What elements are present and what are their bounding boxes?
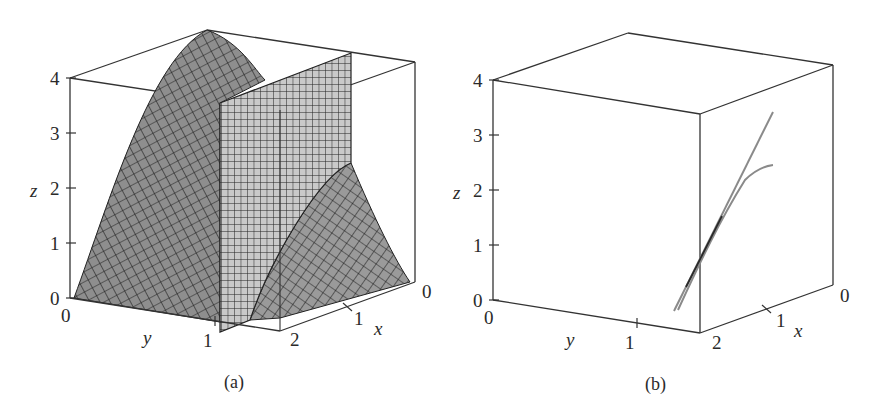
panel-b-z-tick-0: 0 xyxy=(473,290,483,311)
tangent-contact-segment xyxy=(686,216,722,287)
panel-b: 4 3 2 1 0 z 0 1 y 0 1 2 x (b) xyxy=(452,33,850,395)
panel-a-caption: (a) xyxy=(224,372,244,393)
panel-b-z-label: z xyxy=(452,182,461,203)
panel-b-z-tick-3: 3 xyxy=(473,125,483,146)
panel-a-y-label: y xyxy=(141,327,152,348)
panel-a-y-tick-1: 1 xyxy=(203,330,213,351)
panel-b-x-tick-1: 1 xyxy=(776,310,786,331)
panel-a: 4 3 2 1 0 z 0 1 y 0 1 2 x (a) xyxy=(29,30,432,393)
panel-b-z-tick-2: 2 xyxy=(473,180,483,201)
panel-a-x-tick-1: 1 xyxy=(354,308,364,329)
figure: 4 3 2 1 0 z 0 1 y 0 1 2 x (a) xyxy=(0,0,871,410)
panel-b-z-tick-1: 1 xyxy=(473,235,483,256)
panel-b-caption: (b) xyxy=(645,374,666,395)
panel-a-z-tick-3: 3 xyxy=(50,123,60,144)
panel-a-x-tick-2: 2 xyxy=(290,329,300,350)
panel-b-x-label: x xyxy=(793,320,803,341)
panel-a-z-label: z xyxy=(29,180,38,201)
panel-a-z-tick-4: 4 xyxy=(50,68,60,89)
panel-a-z-tick-0: 0 xyxy=(50,288,60,309)
panel-b-y-tick-1: 1 xyxy=(625,332,635,353)
panel-a-z-tick-2: 2 xyxy=(50,178,60,199)
panel-b-x-tick-2: 2 xyxy=(712,332,722,353)
panel-a-x-label: x xyxy=(373,318,383,339)
panel-a-z-tick-1: 1 xyxy=(50,233,60,254)
panel-b-z-tick-4: 4 xyxy=(473,70,483,91)
panel-b-y-tick-0: 0 xyxy=(484,307,494,328)
panel-b-box-frame xyxy=(493,33,833,333)
intersection-curve xyxy=(678,165,773,310)
panel-a-y-tick-0: 0 xyxy=(61,305,71,326)
panel-a-x-tick-0: 0 xyxy=(422,281,432,302)
panel-b-x-tick-0: 0 xyxy=(840,285,850,306)
panel-b-y-label: y xyxy=(564,329,575,350)
panel-b-y-axis xyxy=(493,300,700,333)
